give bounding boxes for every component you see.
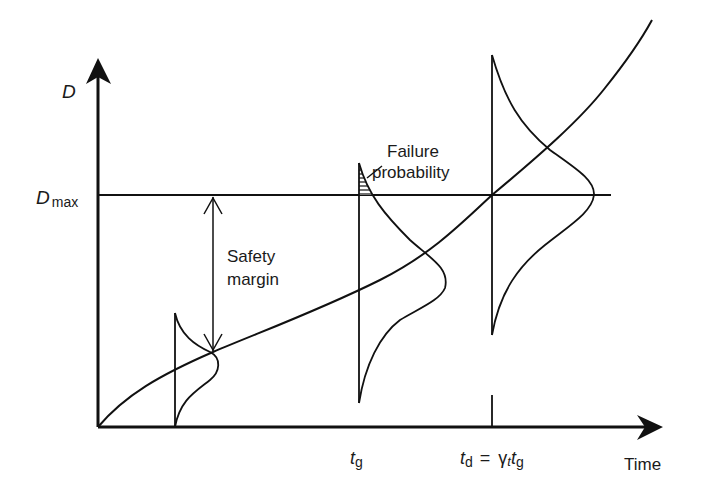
x-axis-label: Time — [624, 455, 661, 474]
x-axis — [98, 415, 663, 440]
tg-label: tg — [350, 448, 363, 470]
degradation-curve — [98, 20, 652, 427]
degradation-diagram: D Dmax Safety margin Failure probability… — [0, 0, 706, 500]
distribution-td — [492, 55, 594, 427]
safety-margin-arrow — [204, 197, 222, 351]
td-label: td=γttg — [460, 448, 524, 470]
safety-margin-label-line2: margin — [227, 270, 279, 289]
failure-probability-label-line1: Failure — [387, 142, 439, 161]
safety-margin-label-line1: Safety — [227, 247, 276, 266]
dmax-label: Dmax — [36, 187, 78, 210]
y-axis — [86, 58, 111, 427]
distribution-early — [175, 313, 218, 427]
failure-probability-label-line2: probability — [372, 163, 450, 182]
y-axis-label: D — [62, 81, 76, 102]
